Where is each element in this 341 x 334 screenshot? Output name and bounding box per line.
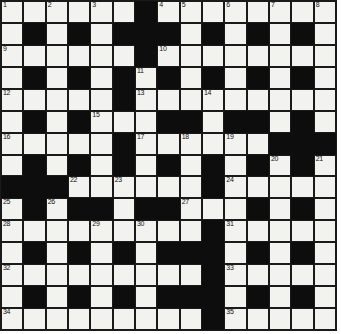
crossword-cell[interactable] (46, 155, 68, 177)
crossword-cell[interactable] (269, 67, 291, 89)
crossword-cell[interactable] (269, 264, 291, 286)
crossword-cell[interactable] (291, 1, 313, 23)
crossword-cell[interactable]: 24 (224, 176, 246, 198)
crossword-cell[interactable]: 6 (224, 1, 246, 23)
crossword-cell[interactable]: 1 (1, 1, 23, 23)
crossword-cell[interactable] (68, 220, 90, 242)
crossword-cell[interactable] (46, 220, 68, 242)
crossword-cell[interactable]: 11 (135, 67, 157, 89)
crossword-cell[interactable] (113, 111, 135, 133)
crossword-cell[interactable]: 4 (157, 1, 179, 23)
crossword-cell[interactable] (314, 67, 336, 89)
crossword-cell[interactable] (135, 264, 157, 286)
crossword-cell[interactable]: 13 (135, 89, 157, 111)
crossword-cell[interactable] (23, 89, 45, 111)
crossword-cell[interactable]: 16 (1, 133, 23, 155)
crossword-cell[interactable] (314, 176, 336, 198)
crossword-cell[interactable] (314, 111, 336, 133)
crossword-cell[interactable] (180, 89, 202, 111)
crossword-cell[interactable] (247, 220, 269, 242)
crossword-cell[interactable]: 28 (1, 220, 23, 242)
crossword-cell[interactable] (135, 286, 157, 308)
crossword-cell[interactable] (314, 242, 336, 264)
crossword-cell[interactable] (314, 89, 336, 111)
crossword-cell[interactable] (113, 1, 135, 23)
crossword-cell[interactable] (68, 308, 90, 330)
crossword-cell[interactable] (46, 264, 68, 286)
crossword-cell[interactable] (291, 45, 313, 67)
crossword-cell[interactable]: 34 (1, 308, 23, 330)
crossword-cell[interactable] (46, 133, 68, 155)
crossword-cell[interactable]: 5 (180, 1, 202, 23)
crossword-cell[interactable] (224, 45, 246, 67)
crossword-cell[interactable]: 19 (224, 133, 246, 155)
crossword-cell[interactable]: 17 (135, 133, 157, 155)
crossword-cell[interactable] (224, 198, 246, 220)
crossword-cell[interactable] (1, 242, 23, 264)
crossword-cell[interactable] (46, 111, 68, 133)
crossword-cell[interactable]: 26 (46, 198, 68, 220)
crossword-cell[interactable] (247, 45, 269, 67)
crossword-cell[interactable] (247, 133, 269, 155)
crossword-cell[interactable] (314, 308, 336, 330)
crossword-cell[interactable] (23, 220, 45, 242)
crossword-cell[interactable] (314, 220, 336, 242)
crossword-cell[interactable]: 18 (180, 133, 202, 155)
crossword-cell[interactable] (23, 1, 45, 23)
crossword-cell[interactable] (202, 198, 224, 220)
crossword-cell[interactable] (68, 89, 90, 111)
crossword-cell[interactable] (314, 45, 336, 67)
crossword-cell[interactable] (1, 111, 23, 133)
crossword-cell[interactable] (113, 45, 135, 67)
crossword-cell[interactable] (202, 111, 224, 133)
crossword-cell[interactable] (180, 308, 202, 330)
crossword-cell[interactable] (113, 308, 135, 330)
crossword-cell[interactable]: 20 (269, 155, 291, 177)
crossword-cell[interactable] (23, 45, 45, 67)
crossword-cell[interactable] (90, 67, 112, 89)
crossword-cell[interactable] (247, 176, 269, 198)
crossword-cell[interactable] (314, 264, 336, 286)
crossword-cell[interactable] (224, 155, 246, 177)
crossword-cell[interactable] (113, 198, 135, 220)
crossword-cell[interactable] (68, 45, 90, 67)
crossword-cell[interactable] (180, 155, 202, 177)
crossword-cell[interactable] (269, 89, 291, 111)
crossword-cell[interactable] (46, 286, 68, 308)
crossword-cell[interactable]: 31 (224, 220, 246, 242)
crossword-cell[interactable]: 21 (314, 155, 336, 177)
crossword-cell[interactable] (46, 45, 68, 67)
crossword-cell[interactable] (90, 264, 112, 286)
crossword-cell[interactable] (90, 155, 112, 177)
crossword-cell[interactable] (46, 242, 68, 264)
crossword-cell[interactable] (269, 45, 291, 67)
crossword-cell[interactable]: 25 (1, 198, 23, 220)
crossword-cell[interactable] (46, 308, 68, 330)
crossword-cell[interactable] (135, 155, 157, 177)
crossword-cell[interactable] (180, 176, 202, 198)
crossword-cell[interactable] (224, 67, 246, 89)
crossword-cell[interactable] (314, 286, 336, 308)
crossword-cell[interactable] (291, 89, 313, 111)
crossword-cell[interactable] (113, 220, 135, 242)
crossword-cell[interactable] (269, 220, 291, 242)
crossword-cell[interactable] (135, 308, 157, 330)
crossword-cell[interactable] (157, 220, 179, 242)
crossword-cell[interactable] (224, 23, 246, 45)
crossword-cell[interactable]: 27 (180, 198, 202, 220)
crossword-cell[interactable] (269, 286, 291, 308)
crossword-cell[interactable]: 8 (314, 1, 336, 23)
crossword-cell[interactable]: 2 (46, 1, 68, 23)
crossword-cell[interactable] (180, 264, 202, 286)
crossword-cell[interactable]: 12 (1, 89, 23, 111)
crossword-cell[interactable] (113, 264, 135, 286)
crossword-cell[interactable] (1, 23, 23, 45)
crossword-cell[interactable] (90, 89, 112, 111)
crossword-cell[interactable] (135, 176, 157, 198)
crossword-cell[interactable] (247, 89, 269, 111)
crossword-cell[interactable] (46, 89, 68, 111)
crossword-cell[interactable] (135, 111, 157, 133)
crossword-cell[interactable] (90, 286, 112, 308)
crossword-cell[interactable]: 15 (90, 111, 112, 133)
crossword-cell[interactable]: 9 (1, 45, 23, 67)
